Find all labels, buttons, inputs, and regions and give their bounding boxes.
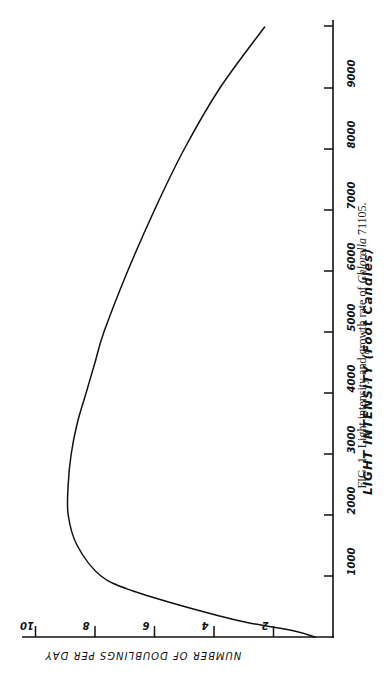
- y-tick-label: 10: [20, 620, 34, 631]
- x-tick-label: 1000: [346, 546, 357, 578]
- y-tick-label: 6: [139, 620, 153, 631]
- y-tick-label: 8: [79, 620, 93, 631]
- growth-rate-chart: 100020003000400050006000700080009000 246…: [0, 0, 392, 692]
- caption-strain: 71105.: [355, 202, 369, 238]
- x-axis-ticks: [324, 26, 333, 576]
- x-tick-label: 8000: [346, 119, 357, 151]
- growth-curve: [67, 27, 315, 637]
- y-axis-ticks: [36, 626, 274, 637]
- y-axis-title: NUMBER OF DOUBLINGS PER DAY: [18, 650, 268, 661]
- x-tick-label: 9000: [346, 58, 357, 90]
- caption-text: Light intensity and growth rate of: [355, 284, 369, 449]
- caption-prefix: FIG. 1.: [355, 454, 369, 488]
- caption-species: Chlorella: [355, 238, 369, 284]
- figure-caption: FIG. 1. Light intensity and growth rate …: [355, 176, 370, 516]
- y-tick-label: 2: [258, 620, 272, 631]
- y-tick-label: 4: [198, 620, 212, 631]
- plot-area: [0, 0, 392, 692]
